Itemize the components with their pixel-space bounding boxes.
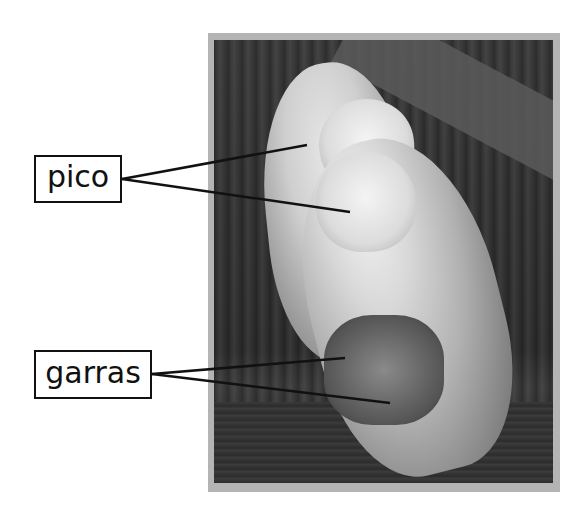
owl-face-front [316,152,416,252]
label-pico-text: pico [47,162,109,192]
label-garras-text: garras [45,358,141,388]
photo-frame [208,33,560,492]
label-garras: garras [34,350,152,399]
label-pico: pico [34,155,122,203]
owl-talons [324,315,444,425]
barn-owls-photo [214,40,553,483]
